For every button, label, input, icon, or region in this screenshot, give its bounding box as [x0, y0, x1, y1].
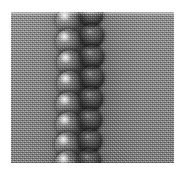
figure-root — [0, 0, 181, 173]
micrograph-plate — [11, 12, 174, 163]
halftone-grain — [11, 12, 174, 163]
